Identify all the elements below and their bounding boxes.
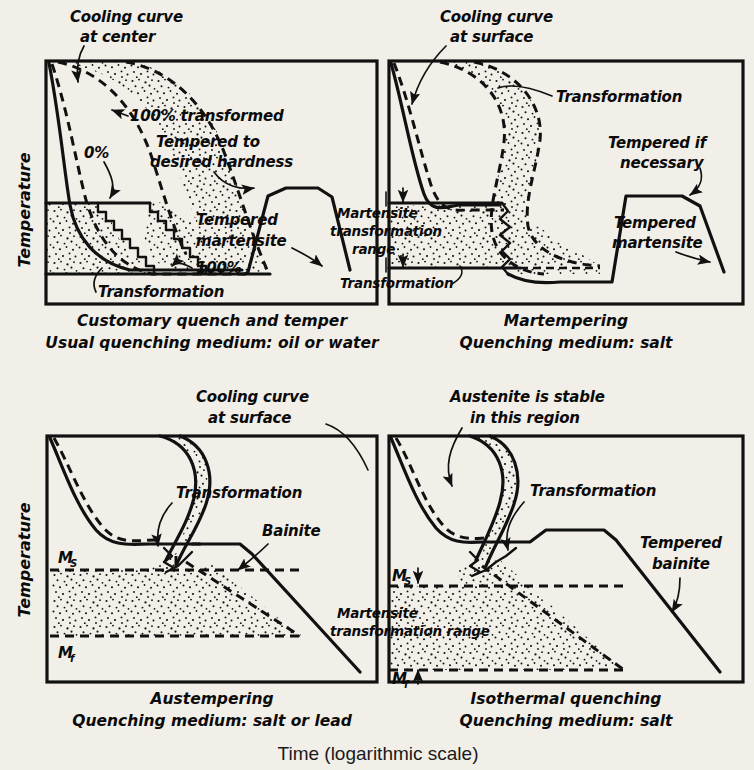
leader-tempered-if-necessary: [690, 168, 702, 195]
x-axis-label-time: Time (logarithmic scale): [278, 743, 479, 764]
caption-line2: Quenching medium: salt or lead: [72, 712, 352, 730]
leader-tempered-bainite: [672, 578, 680, 612]
ms-marker-group: M S: [392, 567, 411, 587]
annotation-transformation-bottom: Transformation: [340, 275, 453, 291]
annotation-martensite-range-line1: Martensite: [337, 205, 418, 221]
annotation-transformation: Transformation: [176, 484, 302, 502]
annotation-martensite-range-line2: transformation range: [330, 623, 490, 639]
annotation-transformation: Transformation: [530, 482, 656, 500]
annotation-cooling-curve-at-surface-line1: Cooling curve: [196, 388, 309, 406]
annotation-necessary-line2: necessary: [620, 154, 705, 172]
annotation-tempered-bainite-line1: Tempered: [640, 534, 722, 552]
ms-marker-subscript: S: [70, 558, 77, 569]
caption-line2: Quenching medium: salt: [459, 712, 673, 730]
y-axis-label-top: Temperature: [15, 152, 34, 267]
leader-transformation: [158, 503, 172, 546]
annotation-tempered-martensite-line2: martensite: [196, 232, 287, 250]
panel-customary-quench-and-temper: Cooling curve at center 100% transformed…: [45, 8, 380, 352]
cooling-curve-solid: [391, 438, 506, 542]
leader-cooling-curve-surface: [412, 46, 446, 104]
caption-line1: Austempering: [149, 690, 273, 708]
mf-marker-group: M f: [392, 670, 410, 690]
annotation-cooling-curve-at-center-line2: at center: [80, 28, 157, 46]
figure-root: Cooling curve at center 100% transformed…: [0, 0, 754, 770]
annotation-tempered-martensite-line1: Tempered: [196, 211, 278, 229]
annotation-tempered-if-line1: Tempered if: [608, 134, 709, 152]
caption-line2: Usual quenching medium: oil or water: [45, 334, 380, 352]
caption-line1: Customary quench and temper: [77, 312, 348, 330]
annotation-martensite-range-line1: Martensite: [337, 605, 418, 621]
caption-line2: Quenching medium: salt: [459, 334, 673, 352]
tt-diagram-sheet: Cooling curve at center 100% transformed…: [0, 0, 754, 770]
annotation-tempered-bainite-line2: bainite: [652, 555, 710, 573]
panel-austempering: Cooling curve at surface Transformation …: [47, 388, 377, 730]
annotation-cooling-curve-at-center-line1: Cooling curve: [70, 8, 183, 26]
annotation-martensite-range-line3: range: [352, 241, 395, 257]
caption-line1: Martempering: [504, 312, 628, 330]
annotation-transformation: Transformation: [98, 283, 224, 301]
leader-0pct: [104, 162, 113, 198]
annotation-austenite-stable-line1: Austenite is stable: [449, 388, 605, 406]
annotation-transformation-top: Transformation: [556, 88, 682, 106]
annotation-tempered-to-line1: Tempered to: [156, 133, 260, 151]
ms-marker-subscript: S: [404, 576, 411, 587]
annotation-cooling-curve-at-surface-line2: at surface: [450, 28, 533, 46]
ms-marker-group: M S: [58, 549, 77, 569]
annotation-martensite-range-line2: transformation: [330, 223, 442, 239]
annotation-100pct: 100%: [196, 259, 242, 277]
annotation-cooling-curve-at-surface-line2: at surface: [208, 409, 291, 427]
cooling-curve-dashed: [396, 438, 488, 538]
annotation-0pct: 0%: [84, 144, 109, 162]
mf-marker-group: M f: [58, 644, 76, 664]
annotation-austenite-stable-line2: in this region: [470, 409, 580, 427]
cooling-curve-surface-dashed: [54, 438, 156, 541]
annotation-desired-hardness-line2: desired hardness: [150, 153, 293, 171]
leader-tempered-martensite: [292, 248, 322, 266]
y-axis-label-bottom: Temperature: [15, 502, 34, 617]
annotation-100pct-transformed: 100% transformed: [130, 107, 284, 125]
annotation-bainite: Bainite: [262, 522, 320, 540]
leader-tempered-martensite: [676, 252, 710, 262]
annotation-tempered-martensite-line1: Tempered: [614, 214, 696, 232]
panel-frame: [47, 436, 377, 682]
caption-line1: Isothermal quenching: [471, 690, 662, 708]
annotation-tempered-martensite-line2: martensite: [612, 234, 703, 252]
leader-100pct-transformed: [112, 110, 128, 116]
mf-marker-subscript: f: [70, 653, 76, 664]
annotation-cooling-curve-at-surface-line1: Cooling curve: [440, 8, 553, 26]
panel-martempering: Cooling curve at surface Transformation …: [330, 8, 743, 352]
leader-cooling-curve-surface: [326, 424, 368, 470]
panel-isothermal-quenching: Austenite is stable in this region Trans…: [330, 388, 743, 730]
